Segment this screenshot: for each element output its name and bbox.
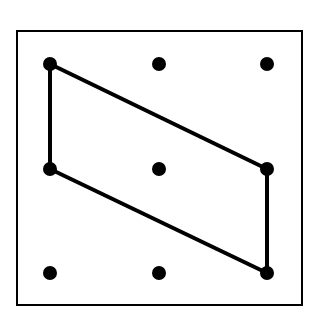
- grid-dot: [152, 57, 166, 71]
- grid-dot: [260, 266, 274, 280]
- grid-dot: [152, 266, 166, 280]
- grid-dot: [152, 162, 166, 176]
- grid-dot: [43, 162, 57, 176]
- grid-dot: [43, 266, 57, 280]
- grid-dot: [260, 57, 274, 71]
- dot-grid: [43, 57, 274, 280]
- diagram-canvas: [0, 0, 323, 321]
- grid-dot: [43, 57, 57, 71]
- grid-dot: [260, 162, 274, 176]
